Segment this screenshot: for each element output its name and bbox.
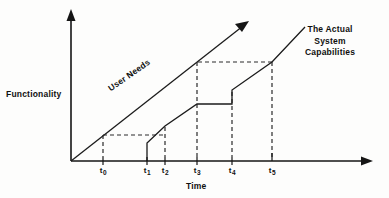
x-tick-label-t3: t3 xyxy=(194,166,200,175)
x-tick-label-t4: t4 xyxy=(229,166,235,175)
x-tick-label-t0: t0 xyxy=(100,166,106,175)
x-tick-label-t3-sub: 3 xyxy=(197,169,201,176)
capabilities-label-line-1: The Actual xyxy=(305,24,355,36)
x-tick-label-t1-sub: 1 xyxy=(147,169,151,176)
y-axis-label: Functionality xyxy=(6,89,62,99)
x-tick-label-t1: t1 xyxy=(144,166,150,175)
diagram-figure: Functionality Time User Needs The Actual… xyxy=(0,0,389,198)
x-tick-label-t4-sub: 4 xyxy=(232,169,236,176)
user-needs-line xyxy=(71,26,243,161)
x-tick-label-t2: t2 xyxy=(162,166,168,175)
system-capabilities-line xyxy=(147,27,305,161)
system-capabilities-label: The Actual System Capabilities xyxy=(305,24,355,59)
x-tick-label-t0-sub: 0 xyxy=(103,169,107,176)
x-tick-label-t2-sub: 2 xyxy=(165,169,169,176)
y-axis-arrowhead-icon xyxy=(67,9,76,21)
x-axis-label: Time xyxy=(186,181,207,191)
capabilities-label-line-3: Capabilities xyxy=(305,47,355,59)
capabilities-label-line-2: System xyxy=(305,36,355,48)
x-tick-label-t5: t5 xyxy=(269,166,275,175)
x-tick-label-t5-sub: 5 xyxy=(272,169,276,176)
x-axis-arrowhead-icon xyxy=(361,157,373,166)
